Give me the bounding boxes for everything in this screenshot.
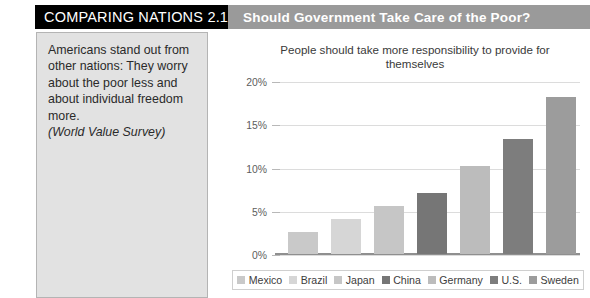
- legend-item: China: [382, 274, 421, 286]
- bar-germany: [460, 166, 490, 254]
- legend-label: Germany: [439, 274, 483, 286]
- chart-title: People should take more responsibility t…: [250, 43, 580, 71]
- gridline: [280, 169, 580, 170]
- y-axis-tick-label: 5%: [252, 206, 267, 217]
- bar-mexico: [288, 232, 318, 254]
- figure-title-bar: Should Government Take Care of the Poor?: [228, 5, 590, 29]
- badge-label: COMPARING NATIONS 2.1: [35, 9, 228, 25]
- page-title: Should Government Take Care of the Poor?: [228, 10, 531, 25]
- caption-source: (World Value Survey): [37, 124, 207, 140]
- legend-label: U.S.: [501, 274, 522, 286]
- bar-sweden: [546, 97, 576, 254]
- bar-brazil: [331, 219, 361, 254]
- legend-item: Germany: [428, 274, 483, 286]
- y-axis-tick-mark: [272, 169, 280, 170]
- legend-item: U.S.: [490, 274, 522, 286]
- chart-panel: People should take more responsibility t…: [212, 32, 590, 298]
- legend-item: Sweden: [529, 274, 579, 286]
- y-axis-tick-label: 20%: [246, 77, 267, 88]
- y-axis-tick-mark: [272, 125, 280, 126]
- legend-label: China: [393, 274, 421, 286]
- comparing-nations-badge: COMPARING NATIONS 2.1: [35, 5, 228, 29]
- legend-swatch-icon: [490, 276, 498, 284]
- gridline: [280, 125, 580, 126]
- plot-area: 0%5%10%15%20%: [280, 82, 580, 255]
- y-axis-tick-label: 0%: [252, 250, 267, 261]
- legend-swatch-icon: [237, 276, 245, 284]
- gridline: [280, 82, 580, 83]
- legend-swatch-icon: [428, 276, 436, 284]
- legend-swatch-icon: [382, 276, 390, 284]
- bar-us: [503, 139, 533, 254]
- legend-label: Mexico: [249, 274, 283, 286]
- caption-panel: Americans stand out from other nations: …: [36, 32, 208, 298]
- y-axis-tick-label: 10%: [246, 163, 267, 174]
- y-axis-tick-mark: [272, 82, 280, 83]
- legend-item: Brazil: [289, 274, 327, 286]
- y-axis-tick-mark: [272, 255, 280, 256]
- bar-china: [417, 193, 447, 254]
- bar-japan: [374, 206, 404, 254]
- y-axis-tick-label: 15%: [246, 120, 267, 131]
- chart-legend: MexicoBrazilJapanChinaGermanyU.S.Sweden: [232, 270, 584, 290]
- y-axis-tick-mark: [272, 212, 280, 213]
- legend-swatch-icon: [289, 276, 297, 284]
- legend-label: Sweden: [541, 274, 579, 286]
- caption-body: Americans stand out from other nations: …: [37, 33, 207, 124]
- legend-label: Brazil: [301, 274, 328, 286]
- legend-item: Mexico: [237, 274, 282, 286]
- legend-swatch-icon: [529, 276, 537, 284]
- gridline: [280, 255, 580, 256]
- figure-root: COMPARING NATIONS 2.1 Should Government …: [0, 0, 590, 298]
- legend-label: Japan: [346, 274, 375, 286]
- legend-item: Japan: [334, 274, 374, 286]
- legend-swatch-icon: [334, 276, 342, 284]
